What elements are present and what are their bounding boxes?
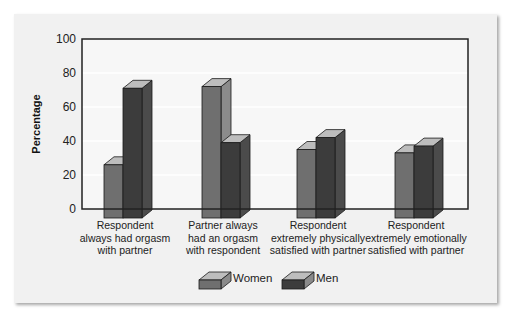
y-tick-label: 0: [69, 202, 76, 216]
category-labels: Respondentalways had orgasmwith partnerP…: [80, 219, 468, 256]
bar-men-3: [316, 130, 345, 218]
bar-chart: 020406080100 Percentage Respondentalways…: [0, 0, 511, 317]
category-label: Respondentextremely physicallysatisfied …: [270, 219, 367, 256]
y-axis-ticks: 020406080100: [56, 32, 76, 216]
y-tick-label: 40: [63, 134, 77, 148]
bar-men-1: [123, 80, 152, 218]
y-tick-label: 100: [56, 32, 76, 46]
legend-label-men: Men: [316, 272, 338, 284]
bar-men-2: [221, 135, 250, 218]
category-label: Partner alwayshad an orgasmwith responde…: [185, 219, 260, 256]
y-axis-label: Percentage: [30, 94, 42, 153]
legend-label-women: Women: [233, 272, 272, 284]
y-tick-label: 80: [63, 66, 77, 80]
y-tick-label: 60: [63, 100, 77, 114]
legend: Women Men: [199, 272, 338, 289]
legend-swatch-men: [282, 272, 314, 289]
category-label: Respondentextremely emotionallysatisfied…: [365, 219, 467, 256]
bar-men-4: [414, 138, 443, 218]
category-label: Respondentalways had orgasmwith partner: [80, 219, 171, 256]
legend-swatch-women: [199, 272, 231, 289]
y-tick-label: 20: [63, 168, 77, 182]
